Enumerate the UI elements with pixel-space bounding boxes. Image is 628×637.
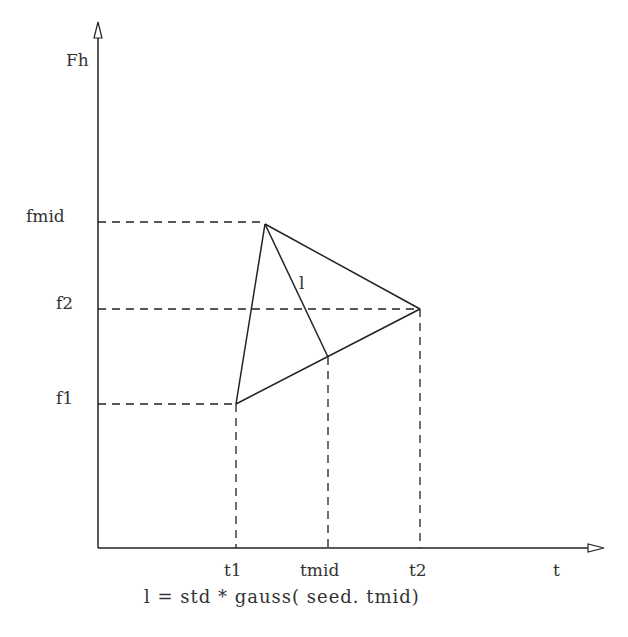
edge-peak-to-f2 <box>265 224 420 309</box>
caption: l = std * gauss( seed. tmid) <box>144 586 420 607</box>
y-axis-arrow-icon <box>94 22 102 38</box>
segment-l-label: l <box>299 273 304 293</box>
y-axis-label: Fh <box>66 50 89 70</box>
midpoint-displacement-diagram: Fh fmid f2 f1 l t1 tmid t2 t l = std * g… <box>0 0 628 637</box>
x-axis-arrow-icon <box>588 544 604 552</box>
edge-f1-to-peak <box>236 224 265 404</box>
fmid-label: fmid <box>26 206 65 226</box>
axes <box>98 24 600 548</box>
t2-label: t2 <box>409 560 427 580</box>
dashed-guides <box>98 222 420 548</box>
f1-label: f1 <box>56 388 73 408</box>
displacement-l <box>265 224 328 357</box>
tmid-label: tmid <box>300 560 339 580</box>
t1-label: t1 <box>224 560 242 580</box>
x-axis-label: t <box>553 560 560 580</box>
f2-label: f2 <box>56 293 73 313</box>
